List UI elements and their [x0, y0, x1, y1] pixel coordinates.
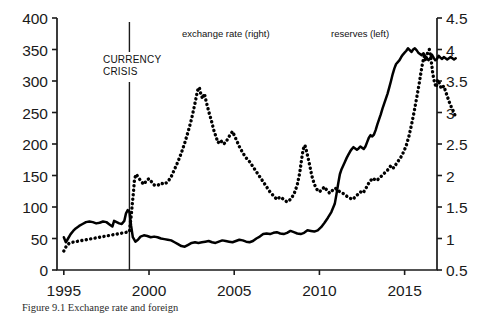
left-y-tick-label: 150 — [22, 168, 48, 185]
chart-svg: 0501001502002503003504000.511.522.533.54… — [0, 0, 491, 313]
right-y-tick-label: 1 — [446, 231, 455, 248]
left-y-tick-label: 400 — [22, 10, 48, 27]
x-tick-label: 2000 — [132, 282, 167, 299]
x-tick-label: 1995 — [47, 282, 81, 299]
left-y-tick-label: 300 — [22, 73, 48, 90]
right-y-tick-label: 4.5 — [446, 10, 468, 27]
figure-caption: Figure 9.1 Exchange rate and foreign — [22, 302, 178, 313]
x-tick-label: 2005 — [217, 282, 251, 299]
right-y-tick-label: 2 — [446, 168, 455, 185]
annotation-exchange-rate: exchange rate (right) — [182, 28, 270, 39]
x-tick-label: 2010 — [302, 282, 337, 299]
left-y-tick-label: 200 — [22, 136, 48, 153]
annotation-reserves: reserves (left) — [331, 28, 389, 39]
figure-container: 0501001502002503003504000.511.522.533.54… — [0, 0, 491, 313]
left-y-tick-label: 50 — [31, 231, 49, 248]
left-y-tick-label: 350 — [22, 42, 48, 59]
left-y-tick-label: 0 — [39, 262, 48, 279]
x-tick-label: 2015 — [387, 282, 421, 299]
left-y-tick-label: 250 — [22, 105, 48, 122]
series-reserves — [64, 48, 456, 246]
right-y-tick-label: 0.5 — [446, 262, 468, 279]
left-y-tick-label: 100 — [22, 199, 48, 216]
crisis-label-line1: CURRENCY — [103, 54, 161, 65]
right-y-tick-label: 2.5 — [446, 136, 468, 153]
right-y-tick-label: 3.5 — [446, 73, 468, 90]
right-y-tick-label: 1.5 — [446, 199, 468, 216]
crisis-label-line2: CRISIS — [103, 66, 138, 77]
series-exchange-rate — [64, 50, 456, 252]
